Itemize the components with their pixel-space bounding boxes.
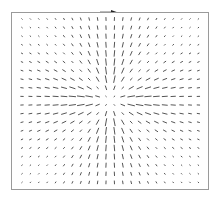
vector-arrow (173, 36, 174, 37)
vector-arrow (96, 77, 98, 81)
vector-arrow (190, 19, 191, 20)
vector-arrow (163, 78, 167, 79)
vector-arrow (39, 174, 40, 175)
vector-arrow (97, 113, 99, 115)
vector-arrow (164, 173, 165, 174)
vector-arrow (114, 136, 115, 142)
vector-arrow (164, 165, 165, 166)
vector-arrow (30, 27, 31, 28)
vector-arrow (37, 88, 41, 89)
vector-arrow (87, 87, 91, 89)
vector-arrow (88, 78, 90, 80)
vector-arrow (77, 96, 84, 97)
vector-arrow (53, 87, 58, 88)
vector-arrow (55, 61, 57, 62)
vector-arrow (198, 53, 199, 54)
vector-arrow (156, 53, 157, 54)
vector-arrow (21, 62, 23, 63)
vector-arrow (88, 146, 90, 150)
vector-arrow (146, 121, 149, 123)
vector-arrow (22, 156, 23, 157)
vector-arrow (97, 51, 98, 56)
vector-arrow (197, 79, 199, 80)
vector-arrow (80, 147, 82, 150)
vector-arrow (114, 96, 115, 97)
vector-arrow (114, 51, 115, 57)
vector-arrow (97, 128, 99, 133)
vector-arrow (164, 19, 165, 20)
vector-arrow (54, 70, 57, 72)
vector-arrow (39, 19, 40, 20)
vector-arrow (63, 70, 66, 72)
vector-arrow (156, 18, 157, 19)
vector-arrow (62, 121, 66, 123)
vector-arrow (80, 181, 81, 183)
vector-arrow (130, 60, 132, 64)
vector-arrow (130, 138, 132, 142)
vector-arrow (173, 148, 174, 149)
vector-arrow (106, 127, 107, 134)
vector-arrow (139, 18, 140, 20)
vector-arrow (77, 104, 84, 105)
vector-arrow (64, 18, 65, 19)
vector-arrow (54, 121, 58, 122)
vector-arrow (198, 139, 199, 140)
vector-arrow (47, 19, 48, 20)
vector-arrow (189, 62, 191, 63)
vector-arrow (89, 18, 90, 21)
vector-arrow (30, 174, 31, 175)
vector-arrow (148, 18, 149, 20)
vector-arrow (181, 139, 183, 140)
vector-arrow (156, 147, 157, 148)
vector-arrow (130, 69, 132, 72)
vector-arrow (129, 112, 133, 114)
vector-arrow (62, 113, 67, 114)
vector-arrow (86, 104, 92, 106)
vector-arrow (122, 137, 124, 142)
vector-arrow (180, 122, 183, 123)
vector-arrow (131, 164, 132, 167)
vector-arrow (147, 70, 149, 72)
vector-arrow (29, 122, 32, 123)
vector-arrow (145, 105, 151, 106)
vector-arrow (54, 78, 58, 79)
vector-arrow (55, 44, 56, 45)
vector-arrow (121, 96, 125, 97)
vector-arrow (147, 53, 148, 55)
vector-arrow (78, 87, 83, 89)
vector-arrow (198, 45, 199, 46)
vector-arrow (71, 70, 73, 72)
vector-arrow (130, 43, 131, 47)
vector-arrow (181, 174, 182, 175)
vector-arrow (64, 173, 65, 174)
vector-arrow (89, 172, 90, 175)
vector-arrow (122, 154, 123, 158)
vector-arrow (105, 86, 106, 90)
vector-arrow (198, 174, 199, 175)
vector-arrow (46, 139, 48, 140)
vector-arrow (39, 165, 40, 166)
vector-arrow (137, 87, 142, 89)
vector-arrow (156, 35, 157, 36)
vector-arrow (122, 146, 123, 151)
vector-arrow (172, 61, 174, 62)
vector-arrow (198, 19, 199, 20)
vector-arrow (72, 156, 73, 158)
vector-arrow (163, 87, 168, 88)
vector-arrow (164, 61, 166, 62)
vector-arrow (30, 62, 32, 63)
vector-arrow (164, 44, 165, 45)
vector-arrow (97, 163, 98, 167)
vector-arrow (97, 87, 99, 89)
vector-arrow (181, 53, 182, 54)
vector-arrow (38, 61, 40, 62)
vector-arrow (88, 121, 90, 123)
vector-arrow (122, 113, 124, 115)
vector-arrow (69, 96, 75, 97)
vector-arrow (173, 156, 174, 157)
vector-arrow (180, 130, 182, 131)
vector-arrow (30, 182, 31, 183)
vector-arrow (121, 104, 125, 105)
vector-arrow (21, 130, 23, 131)
vector-arrow (173, 182, 174, 183)
